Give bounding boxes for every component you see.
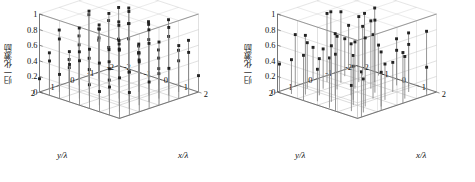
tick-label-x: 1	[422, 83, 426, 92]
tick-label-x: 2	[442, 90, 446, 99]
tick-mark-x	[199, 92, 202, 93]
tick-label-z: 0.4	[27, 57, 38, 66]
stem-marker	[147, 28, 150, 31]
stem-marker	[380, 50, 383, 53]
stem-marker	[78, 50, 81, 53]
stem-marker	[364, 36, 367, 39]
stem-marker	[118, 76, 121, 79]
tick-mark-z	[40, 14, 43, 15]
stem-marker	[372, 33, 375, 36]
stem-marker	[306, 41, 309, 44]
stem-marker	[48, 51, 51, 54]
tick-label-y: 1	[289, 83, 293, 92]
stem-marker	[361, 25, 364, 28]
stem-marker	[350, 42, 353, 45]
tick-mark-x	[437, 92, 440, 93]
stem-marker	[425, 66, 428, 69]
stem-marker	[127, 7, 130, 10]
stem-marker	[343, 37, 346, 40]
tick-label-x: -1	[144, 70, 151, 79]
stem-marker	[58, 29, 61, 32]
stem-marker	[318, 57, 321, 60]
stem-marker	[336, 35, 339, 38]
stem-marker	[322, 47, 325, 50]
stem-marker	[347, 24, 350, 27]
stem-marker	[373, 19, 376, 22]
stem-marker	[117, 24, 120, 27]
stem-marker	[177, 44, 180, 47]
tick-label-x: 0	[164, 76, 168, 85]
stem-marker	[58, 38, 61, 41]
stem-marker	[148, 81, 151, 84]
stem-marker	[98, 62, 101, 65]
stem-marker	[380, 71, 383, 74]
stem-marker	[294, 33, 297, 36]
stem-marker	[98, 90, 101, 93]
stem-marker	[290, 58, 293, 61]
stem-marker	[407, 31, 410, 34]
stem-marker	[138, 51, 141, 54]
stem-marker	[118, 39, 121, 42]
stem-marker	[78, 59, 81, 62]
tick-label-z: 0.8	[27, 26, 37, 35]
tick-label-y: 0	[70, 76, 74, 85]
stem-marker	[369, 19, 372, 22]
stem-marker	[128, 91, 131, 94]
stem-series	[278, 7, 428, 118]
tick-label-y: 2	[31, 89, 35, 98]
plot-canvas-left: 00.20.40.60.81-2-1012-2-1012	[0, 0, 237, 182]
stem-marker	[278, 63, 281, 66]
grid-line-top-y	[99, 0, 179, 21]
stem-marker	[147, 20, 150, 23]
stem-series	[38, 6, 200, 118]
tick-mark-z	[278, 45, 281, 46]
stem-marker	[357, 15, 360, 18]
stem-marker	[157, 48, 160, 51]
stem-marker	[401, 51, 404, 54]
box-edge-top-front-right	[357, 0, 437, 14]
stem-marker	[48, 60, 51, 63]
stem-marker	[395, 49, 398, 52]
stem-marker	[117, 6, 120, 9]
stem-marker	[373, 7, 376, 10]
stem-marker	[78, 27, 81, 30]
stem-marker	[384, 63, 387, 66]
stem-marker	[88, 48, 91, 51]
stem-marker	[312, 46, 315, 49]
tick-label-y: 0	[308, 76, 312, 85]
box-edge-top-front-right	[119, 0, 199, 14]
stem-marker	[68, 50, 71, 53]
stem-marker	[187, 39, 190, 42]
stem-marker	[334, 53, 337, 56]
stem-marker	[302, 54, 305, 57]
tick-mark-z	[278, 14, 281, 15]
stem-marker	[330, 44, 333, 47]
tick-label-z: 0.2	[265, 72, 275, 81]
stem-marker	[425, 30, 428, 33]
stem-marker	[108, 60, 111, 63]
tick-mark-z	[278, 30, 281, 31]
stem-marker	[350, 84, 353, 87]
chart-panel-right: 归一化激励 y/λ x/λ 00.20.40.60.81-2-1012-2-10…	[238, 0, 475, 182]
stem-marker	[407, 43, 410, 46]
box-edge-top-front-left	[40, 0, 119, 14]
stem-marker	[108, 67, 111, 70]
stem-marker	[118, 43, 121, 46]
stem-marker	[403, 55, 406, 58]
stem-marker	[326, 12, 329, 15]
stem-marker	[362, 77, 365, 80]
stem-marker	[108, 48, 111, 51]
stem-marker	[197, 74, 200, 77]
grid-line-top-y	[337, 0, 417, 21]
stem-marker	[68, 63, 71, 66]
stem-marker	[395, 37, 398, 40]
stem-marker	[354, 40, 357, 43]
stem-marker	[167, 18, 170, 21]
tick-mark-z	[40, 45, 43, 46]
stem-marker	[98, 23, 101, 26]
stem-marker	[167, 26, 170, 29]
tick-mark-z	[40, 61, 43, 62]
tick-mark-z	[40, 30, 43, 31]
stem-marker	[58, 73, 61, 76]
stem-marker	[339, 10, 342, 13]
